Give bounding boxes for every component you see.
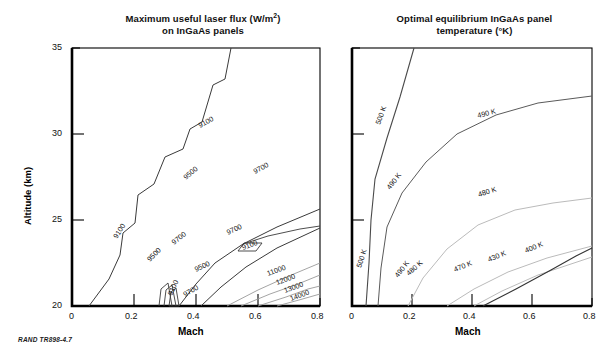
right-x-tick-04: 0.4	[463, 311, 476, 321]
right-x-tick-08: 0.8	[583, 311, 596, 321]
left-y-tick-35: 35	[52, 42, 62, 52]
left-y-tick-20: 20	[52, 300, 62, 310]
left-x-axis-label: Mach	[178, 326, 204, 337]
left-y-tick-30: 30	[52, 128, 62, 138]
right-x-tick-02: 0.2	[403, 311, 416, 321]
left-x-tick-0: 0	[69, 311, 74, 321]
right-x-tick-0: 0	[349, 311, 354, 321]
right-x-tick-06: 0.6	[523, 311, 536, 321]
right-panel-title: Optimal equilibrium InGaAs panel tempera…	[362, 13, 587, 37]
credit-rand: RAND	[18, 336, 38, 343]
figure-plots: 9100 9100 9100 9100 9500 9500 9500 9700 …	[0, 0, 605, 361]
left-y-axis-label: Altitude (km)	[22, 167, 33, 225]
figure-credit: RAND TR898-4.7	[18, 336, 72, 343]
left-y-tick-25: 25	[52, 214, 62, 224]
right-title-line-2: temperature (°K)	[362, 25, 587, 37]
left-plot: 9100 9100 9100 9100 9500 9500 9500 9700 …	[72, 48, 320, 306]
left-x-tick-08: 0.8	[311, 311, 324, 321]
left-x-tick-04: 0.4	[187, 311, 200, 321]
credit-report-id: TR898-4.7	[40, 336, 73, 343]
right-title-line-1: Optimal equilibrium InGaAs panel	[362, 13, 587, 25]
right-plot: 500 K 500 K 490 K 490 K 490 K 480 K 480 …	[352, 48, 592, 306]
left-x-tick-06: 0.6	[249, 311, 262, 321]
figure-container: Maximum useful laser flux (W/m2) on InGa…	[0, 0, 605, 361]
right-x-axis-label: Mach	[455, 326, 481, 337]
left-x-tick-02: 0.2	[125, 311, 138, 321]
